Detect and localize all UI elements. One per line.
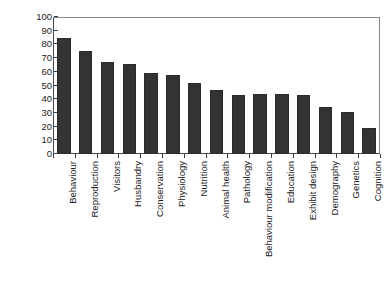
bar	[166, 75, 180, 154]
x-axis-tick-mark	[53, 154, 54, 158]
bar-slot	[140, 17, 162, 154]
x-axis-tick-label: Cognition	[373, 161, 383, 285]
x-axis-tick-mark	[380, 154, 381, 158]
x-axis-tick-mark	[206, 154, 207, 158]
bar-slot	[227, 17, 249, 154]
bar-slot	[118, 17, 140, 154]
y-axis-tick-label: 90	[41, 25, 52, 37]
bar	[101, 62, 115, 154]
bar-slot	[162, 17, 184, 154]
x-axis-tick-mark	[75, 154, 76, 158]
bar	[144, 73, 158, 155]
y-axis-tick-label: 20	[41, 121, 52, 133]
x-axis-tick-mark	[293, 154, 294, 158]
x-axis-tick-mark	[336, 154, 337, 158]
y-axis-tick-label: 50	[41, 80, 52, 92]
y-axis-tick-label: 60	[41, 66, 52, 78]
y-axis-tick-label: 80	[41, 38, 52, 50]
x-axis-tick-mark	[249, 154, 250, 158]
bar-slot	[336, 17, 358, 154]
x-axis-tick-label: Husbandry	[133, 161, 143, 285]
x-axis-tick-mark	[97, 154, 98, 158]
bar-chart: % of zoos 1009080706050403020100 Behavio…	[0, 0, 391, 285]
bar	[188, 83, 202, 154]
x-axis-tick-label: Behaviour modification	[264, 161, 274, 285]
x-axis-tick-label: Visitors	[112, 161, 122, 285]
x-axis-tick-mark	[227, 154, 228, 158]
y-axis-tick-label: 0	[47, 148, 52, 160]
bar-slot	[75, 17, 97, 154]
bar-slot	[206, 17, 228, 154]
bar	[275, 94, 289, 154]
bar	[123, 64, 137, 154]
bar	[319, 107, 333, 154]
y-axis-tick-label: 10	[41, 134, 52, 146]
bar	[297, 95, 311, 154]
x-axis-tick-label: Genetics	[351, 161, 361, 285]
y-axis-tick-label: 30	[41, 107, 52, 119]
x-axis-tick-label: Physiology	[177, 161, 187, 285]
bar-slot	[293, 17, 315, 154]
x-axis-tick-mark	[162, 154, 163, 158]
bar	[79, 51, 93, 154]
bar	[253, 94, 267, 154]
bars-layer	[53, 17, 380, 154]
x-axis-tick-mark	[184, 154, 185, 158]
x-axis-tick-label: Behaviour	[68, 161, 78, 285]
bar-slot	[53, 17, 75, 154]
y-axis-tick-label: 70	[41, 52, 52, 64]
x-axis-tick-label: Exhibit design	[308, 161, 318, 285]
bar-slot	[358, 17, 380, 154]
bar-slot	[271, 17, 293, 154]
bar-slot	[184, 17, 206, 154]
x-axis-tick-mark	[271, 154, 272, 158]
bar-slot	[97, 17, 119, 154]
bar	[232, 95, 246, 154]
bar-slot	[315, 17, 337, 154]
y-axis-tick-label: 40	[41, 93, 52, 105]
x-axis-tick-label: Reproduction	[90, 161, 100, 285]
x-axis-tick-label: Conservation	[155, 161, 165, 285]
x-axis-tick-mark	[140, 154, 141, 158]
x-axis-tick-label: Pathology	[242, 161, 252, 285]
bar	[210, 90, 224, 154]
bar	[57, 38, 71, 154]
y-axis-tick-label: 100	[36, 11, 52, 23]
x-axis-tick-mark	[358, 154, 359, 158]
x-axis-tick-mark	[315, 154, 316, 158]
bar	[362, 128, 376, 154]
bar	[341, 112, 355, 154]
x-axis-tick-label: Demography	[330, 161, 340, 285]
x-axis-tick-label: Nutrition	[199, 161, 209, 285]
x-axis-tick-label: Education	[286, 161, 296, 285]
bar-slot	[249, 17, 271, 154]
x-axis-tick-mark	[118, 154, 119, 158]
x-axis-tick-label: Animal health	[221, 161, 231, 285]
